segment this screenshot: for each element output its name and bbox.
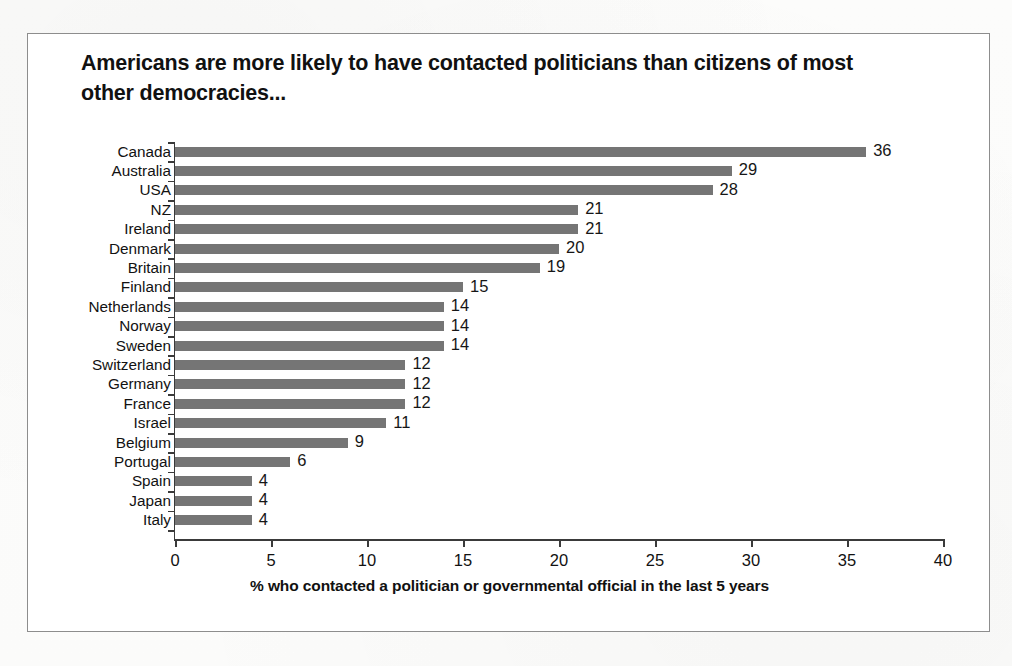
bar bbox=[175, 282, 463, 292]
bar-row: Canada36 bbox=[175, 142, 943, 161]
bar-category-label: Spain bbox=[132, 472, 171, 490]
x-axis-tick-label: 20 bbox=[550, 551, 568, 570]
bar-category-label: Italy bbox=[143, 511, 171, 529]
bar-category-label: Switzerland bbox=[92, 356, 171, 374]
bar-category-label: Denmark bbox=[109, 240, 171, 258]
bar bbox=[175, 515, 252, 525]
bar-category-label: Norway bbox=[119, 317, 171, 335]
x-axis-tick bbox=[463, 539, 465, 547]
bar-row: Japan4 bbox=[175, 491, 943, 510]
bar-row: Ireland21 bbox=[175, 220, 943, 239]
bar-value-label: 36 bbox=[873, 141, 891, 160]
bar-category-label: France bbox=[123, 395, 171, 413]
bar bbox=[175, 185, 713, 195]
bar bbox=[175, 341, 444, 351]
bar-category-label: Finland bbox=[121, 278, 171, 296]
x-axis-tick bbox=[943, 539, 945, 547]
bar bbox=[175, 379, 405, 389]
bar-value-label: 12 bbox=[412, 393, 430, 412]
bar-value-label: 6 bbox=[297, 451, 306, 470]
bar bbox=[175, 166, 732, 176]
bar-value-label: 29 bbox=[739, 160, 757, 179]
bar-value-label: 15 bbox=[470, 277, 488, 296]
bar-row: Britain19 bbox=[175, 258, 943, 277]
bar-value-label: 14 bbox=[451, 316, 469, 335]
bar-row: Finland15 bbox=[175, 278, 943, 297]
x-axis-tick bbox=[559, 539, 561, 547]
bar-value-label: 9 bbox=[355, 432, 364, 451]
x-axis-tick-label: 5 bbox=[266, 551, 275, 570]
x-axis-tick-label: 35 bbox=[838, 551, 856, 570]
x-axis-tick-label: 30 bbox=[742, 551, 760, 570]
bar-row: USA28 bbox=[175, 181, 943, 200]
plot-area: Canada36Australia29USA28NZ21Ireland21Den… bbox=[175, 142, 943, 539]
bar-row: NZ21 bbox=[175, 200, 943, 219]
chart-title: Americans are more likely to have contac… bbox=[81, 48, 911, 108]
bar-row: Australia29 bbox=[175, 161, 943, 180]
bar-row: Germany12 bbox=[175, 375, 943, 394]
bar-value-label: 12 bbox=[412, 354, 430, 373]
bar-row: Belgium9 bbox=[175, 433, 943, 452]
bar-value-label: 21 bbox=[585, 199, 603, 218]
bar bbox=[175, 476, 252, 486]
bar-row: Spain4 bbox=[175, 472, 943, 491]
bar-category-label: Ireland bbox=[124, 220, 171, 238]
bar-category-label: Australia bbox=[111, 162, 171, 180]
bar-category-label: NZ bbox=[151, 201, 171, 219]
bar bbox=[175, 302, 444, 312]
bar-value-label: 21 bbox=[585, 219, 603, 238]
bar-category-label: Portugal bbox=[114, 453, 171, 471]
bar-category-label: Canada bbox=[117, 143, 171, 161]
bar-value-label: 11 bbox=[393, 413, 410, 432]
x-axis-tick bbox=[367, 539, 369, 547]
bar-category-label: Netherlands bbox=[89, 298, 171, 316]
x-axis-tick-label: 40 bbox=[934, 551, 952, 570]
bar-value-label: 19 bbox=[547, 257, 565, 276]
bar-category-label: Japan bbox=[129, 492, 171, 510]
bar bbox=[175, 321, 444, 331]
chart-figure-frame: Americans are more likely to have contac… bbox=[27, 33, 990, 632]
bar-row: Switzerland12 bbox=[175, 355, 943, 374]
x-axis-tick bbox=[751, 539, 753, 547]
bar-category-label: Germany bbox=[108, 375, 171, 393]
bar-row: Sweden14 bbox=[175, 336, 943, 355]
bar bbox=[175, 263, 540, 273]
bar-value-label: 4 bbox=[259, 510, 268, 529]
bar-category-label: Israel bbox=[134, 414, 171, 432]
bar bbox=[175, 244, 559, 254]
bar bbox=[175, 457, 290, 467]
x-axis-tick bbox=[655, 539, 657, 547]
bar-category-label: USA bbox=[140, 181, 171, 199]
bar-value-label: 14 bbox=[451, 335, 469, 354]
bar-row: Italy4 bbox=[175, 511, 943, 530]
bar bbox=[175, 360, 405, 370]
bar-value-label: 4 bbox=[259, 490, 268, 509]
x-axis-tick-label: 10 bbox=[358, 551, 376, 570]
bar bbox=[175, 224, 578, 234]
bar bbox=[175, 399, 405, 409]
x-axis-tick-label: 0 bbox=[170, 551, 179, 570]
x-axis-tick bbox=[271, 539, 273, 547]
x-axis-tick-label: 15 bbox=[454, 551, 472, 570]
bar-row: Denmark20 bbox=[175, 239, 943, 258]
x-axis-tick-label: 25 bbox=[646, 551, 664, 570]
bar bbox=[175, 438, 348, 448]
bar-row: Norway14 bbox=[175, 317, 943, 336]
bar bbox=[175, 496, 252, 506]
bar bbox=[175, 418, 386, 428]
bar bbox=[175, 147, 866, 157]
bar-row: France12 bbox=[175, 394, 943, 413]
x-axis-tick bbox=[847, 539, 849, 547]
bar-category-label: Sweden bbox=[116, 337, 171, 355]
bar-category-label: Britain bbox=[128, 259, 171, 277]
bar-value-label: 12 bbox=[412, 374, 430, 393]
x-axis-tick bbox=[175, 539, 177, 547]
bar-row: Israel11 bbox=[175, 414, 943, 433]
x-axis-label: % who contacted a politician or governme… bbox=[28, 577, 991, 595]
y-axis-tick bbox=[168, 530, 175, 532]
bar-value-label: 14 bbox=[451, 296, 469, 315]
bar-value-label: 4 bbox=[259, 471, 268, 490]
bar bbox=[175, 205, 578, 215]
bar-value-label: 20 bbox=[566, 238, 584, 257]
bar-value-label: 28 bbox=[720, 180, 738, 199]
